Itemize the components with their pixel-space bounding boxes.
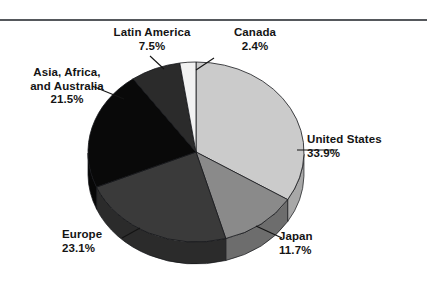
slice-label-canada-name: Canada	[234, 26, 276, 38]
slice-label-canada: Canada 2.4%	[209, 26, 301, 53]
slice-label-japan: Japan 11.7%	[279, 230, 357, 257]
slice-label-japan-percent: 11.7%	[279, 244, 357, 258]
slice-label-europe-name: Europe	[62, 228, 102, 240]
slice-label-asia-africa-australia-line2: and Australia	[6, 80, 128, 94]
slice-label-united-states-percent: 33.9%	[307, 147, 423, 161]
pie-chart-figure: Latin America 7.5% Canada 2.4% Asia, Afr…	[0, 0, 427, 288]
slice-label-united-states: United States 33.9%	[307, 133, 423, 160]
slice-label-asia-africa-australia: Asia, Africa, and Australia 21.5%	[6, 66, 128, 107]
slice-label-canada-percent: 2.4%	[209, 40, 301, 54]
slice-label-latin-america-name: Latin America	[114, 26, 191, 38]
slice-label-asia-africa-australia-percent: 21.5%	[6, 93, 128, 107]
slice-label-latin-america: Latin America 7.5%	[93, 26, 211, 53]
slice-label-asia-africa-australia-line1: Asia, Africa,	[33, 66, 100, 78]
leader-latin-america	[150, 56, 164, 69]
slice-label-japan-name: Japan	[279, 230, 313, 242]
slice-label-latin-america-percent: 7.5%	[93, 40, 211, 54]
slice-label-united-states-name: United States	[307, 133, 382, 145]
slice-label-europe: Europe 23.1%	[62, 228, 146, 255]
slice-label-europe-percent: 23.1%	[62, 242, 146, 256]
